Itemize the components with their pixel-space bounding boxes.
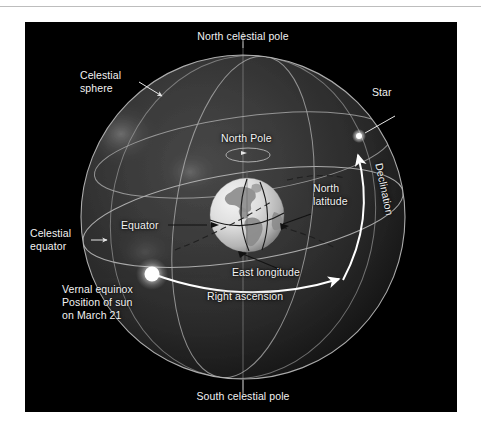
top-divider-rule (0, 6, 481, 7)
label-celestial-sphere-line2: sphere (80, 82, 113, 95)
label-south-celestial-pole: South celestial pole (168, 390, 318, 403)
star-marker (352, 129, 366, 143)
label-north-latitude-line1: North (313, 182, 339, 195)
label-east-longitude: East longitude (232, 266, 300, 279)
label-vernal-equinox-line1: Vernal equinox (62, 283, 133, 296)
label-right-ascension: Right ascension (207, 290, 283, 303)
label-vernal-equinox-line3: on March 21 (62, 309, 121, 322)
label-celestial-sphere-line1: Celestial (80, 69, 121, 82)
label-north-pole: North Pole (221, 132, 272, 145)
label-north-latitude-line2: latitude (313, 195, 348, 208)
label-celestial-equator-line1: Celestial (30, 227, 71, 240)
page-root: North celestial pole South celestial pol… (0, 0, 481, 428)
continent-greenland (251, 184, 262, 193)
label-north-celestial-pole: North celestial pole (168, 30, 318, 43)
celestial-sphere-figure-panel: North celestial pole South celestial pol… (25, 22, 457, 412)
label-celestial-equator-line2: equator (30, 240, 66, 253)
label-star: Star (372, 86, 392, 99)
label-vernal-equinox-line2: Position of sun (62, 296, 132, 309)
vernal-equinox-sun (136, 258, 168, 290)
label-equator: Equator (121, 219, 158, 232)
